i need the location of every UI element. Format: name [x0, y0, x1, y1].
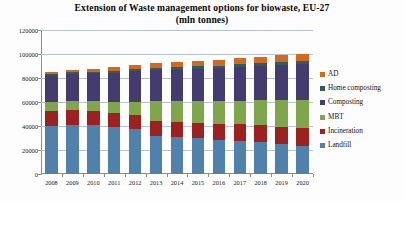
bar-stack[interactable]: [150, 63, 163, 174]
bar-segment[interactable]: [108, 113, 121, 127]
bar-segment[interactable]: [108, 67, 121, 70]
bar-segment[interactable]: [213, 140, 226, 174]
bar-segment[interactable]: [150, 68, 163, 70]
bar-segment[interactable]: [275, 55, 288, 61]
bar-segment[interactable]: [150, 136, 163, 174]
bar-segment[interactable]: [254, 57, 267, 63]
bar-stack[interactable]: [45, 72, 58, 174]
bar-segment[interactable]: [296, 64, 309, 99]
bar-segment[interactable]: [171, 137, 184, 174]
bar-segment[interactable]: [254, 63, 267, 66]
bar-segment[interactable]: [254, 125, 267, 142]
bar-segment[interactable]: [275, 144, 288, 174]
bar-segment[interactable]: [275, 65, 288, 100]
bar-segment[interactable]: [45, 72, 58, 74]
bar-segment[interactable]: [192, 61, 205, 66]
bar-segment[interactable]: [254, 142, 267, 174]
bar-stack[interactable]: [296, 54, 309, 174]
bar-segment[interactable]: [66, 74, 79, 102]
bar-stack[interactable]: [234, 58, 247, 174]
bar-segment[interactable]: [129, 115, 142, 129]
bar-segment[interactable]: [213, 60, 226, 66]
bar-segment[interactable]: [254, 100, 267, 125]
bar-segment[interactable]: [171, 101, 184, 122]
x-axis-tick-label: 2016: [208, 179, 230, 187]
bar-segment[interactable]: [45, 102, 58, 111]
bar-stack[interactable]: [192, 61, 205, 174]
bar-segment[interactable]: [234, 124, 247, 141]
legend-item[interactable]: Landfill: [320, 139, 404, 153]
bar-segment[interactable]: [66, 70, 79, 72]
bar-segment[interactable]: [45, 74, 58, 75]
bar-segment[interactable]: [171, 62, 184, 67]
bar-stack[interactable]: [254, 57, 267, 174]
legend-item[interactable]: Home composting: [320, 82, 404, 96]
bar-segment[interactable]: [87, 73, 100, 101]
bar-stack[interactable]: [171, 62, 184, 174]
bar-segment[interactable]: [192, 101, 205, 123]
bar-segment[interactable]: [150, 121, 163, 135]
bar-segment[interactable]: [192, 66, 205, 69]
bar-segment[interactable]: [275, 62, 288, 65]
bar-segment[interactable]: [192, 123, 205, 138]
bar-stack[interactable]: [213, 60, 226, 174]
bar-segment[interactable]: [66, 101, 79, 110]
bar-segment[interactable]: [108, 73, 121, 102]
bar-segment[interactable]: [129, 65, 142, 69]
bar-segment[interactable]: [129, 102, 142, 115]
bar-segment[interactable]: [234, 67, 247, 101]
bar-segment[interactable]: [129, 71, 142, 102]
legend-swatch-icon: [320, 129, 325, 134]
bar-segment[interactable]: [150, 101, 163, 121]
bar-segment[interactable]: [171, 122, 184, 137]
bar-segment[interactable]: [129, 69, 142, 71]
bar-segment[interactable]: [66, 125, 79, 174]
bar-segment[interactable]: [254, 66, 267, 100]
bar-segment[interactable]: [213, 101, 226, 123]
bar-segment[interactable]: [45, 126, 58, 174]
bar-stack[interactable]: [66, 70, 79, 174]
bar-segment[interactable]: [87, 111, 100, 125]
bar-segment[interactable]: [108, 71, 121, 73]
bar-segment[interactable]: [275, 127, 288, 144]
bar-segment[interactable]: [171, 67, 184, 70]
bar-stack[interactable]: [275, 55, 288, 174]
bar-segment[interactable]: [296, 128, 309, 146]
bar-segment[interactable]: [87, 69, 100, 72]
bar-segment[interactable]: [66, 72, 79, 73]
bar-segment[interactable]: [150, 63, 163, 68]
bar-segment[interactable]: [192, 138, 205, 174]
bar-segment[interactable]: [275, 100, 288, 127]
bar-segment[interactable]: [150, 70, 163, 101]
bar-segment[interactable]: [108, 102, 121, 113]
bar-segment[interactable]: [296, 146, 309, 174]
bar-segment[interactable]: [296, 54, 309, 60]
bar-stack[interactable]: [129, 65, 142, 174]
legend-item[interactable]: AD: [320, 68, 404, 82]
x-axis-tick-label: 2011: [103, 179, 125, 187]
bar-segment[interactable]: [45, 75, 58, 102]
bar-stack[interactable]: [87, 69, 100, 174]
bar-segment[interactable]: [213, 66, 226, 69]
bar-segment[interactable]: [87, 101, 100, 111]
bar-segment[interactable]: [87, 125, 100, 174]
legend-item[interactable]: Composting: [320, 96, 404, 110]
bar-segment[interactable]: [296, 61, 309, 64]
legend-item[interactable]: MBT: [320, 111, 404, 125]
bar-segment[interactable]: [66, 110, 79, 125]
bar-stack[interactable]: [108, 67, 121, 174]
bar-segment[interactable]: [234, 58, 247, 64]
bar-segment[interactable]: [296, 100, 309, 129]
bar-segment[interactable]: [234, 141, 247, 174]
legend-item[interactable]: Incineration: [320, 125, 404, 139]
bar-segment[interactable]: [45, 111, 58, 126]
bar-segment[interactable]: [129, 129, 142, 174]
bar-segment[interactable]: [234, 64, 247, 67]
bar-segment[interactable]: [192, 69, 205, 101]
bar-segment[interactable]: [108, 127, 121, 174]
bar-segment[interactable]: [213, 124, 226, 140]
bar-segment[interactable]: [171, 70, 184, 102]
bar-segment[interactable]: [87, 72, 100, 74]
bar-segment[interactable]: [234, 101, 247, 124]
bar-segment[interactable]: [213, 68, 226, 101]
